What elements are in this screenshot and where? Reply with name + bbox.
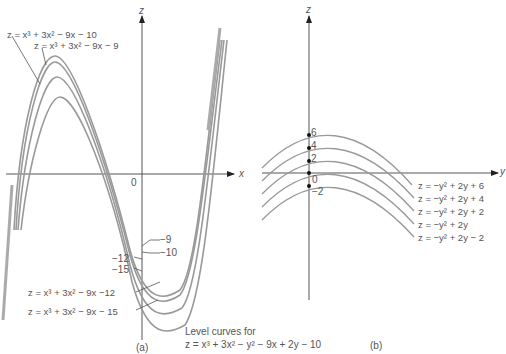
z-axis-label-b: z: [306, 4, 311, 15]
curve-bundle-top: [208, 28, 220, 130]
tick-label-minus12: −12: [112, 253, 129, 264]
x-axis-label: x: [239, 168, 244, 179]
tick-label-2: 2: [311, 153, 317, 164]
curve-label-minus9: z = x³ + 3x² − 9x − 9: [34, 40, 118, 51]
caption-line2: z = x³ + 3x² − y² − 9x + 2y − 10: [185, 339, 321, 350]
leader-lines-a: [12, 36, 160, 310]
parabola-curves: [262, 135, 414, 237]
curve-bundle-left: [3, 185, 12, 320]
panel-label-a: (a): [136, 342, 148, 353]
origin-label-a: 0: [131, 177, 137, 188]
parabola-label-0: z = −y² + 2y: [418, 219, 468, 230]
y-axis-label: y: [500, 166, 505, 177]
curve-label-minus10: z = x³ + 3x² − 9x − 10: [7, 29, 97, 40]
parabola-label-plus4: z = −y² + 2y + 4: [418, 193, 484, 204]
parabola-label-plus2: z = −y² + 2y + 2: [418, 206, 484, 217]
tick-label-6: 6: [311, 127, 317, 138]
panel-label-b: (b): [370, 340, 382, 351]
tick-label-4: 4: [311, 140, 317, 151]
tick-label-minus15: −15: [112, 264, 129, 275]
parabola-label-plus6: z = −y² + 2y + 6: [418, 180, 484, 191]
parabola-label-minus2: z = −y² + 2y − 2: [418, 232, 484, 243]
z-axis-label-a: z: [139, 5, 144, 16]
tick-label-minus2: −2: [312, 186, 323, 197]
tick-label-minus9: −9: [160, 234, 171, 245]
tick-label-minus10: −10: [160, 247, 177, 258]
tick-label-0: 0: [312, 174, 318, 185]
figure-canvas: [0, 0, 506, 354]
caption-line1: Level curves for: [185, 326, 256, 337]
curve-label-minus12: z = x³ + 3x² − 9x −12: [28, 287, 115, 298]
curve-label-minus15: z = x³ + 3x² − 9x − 15: [28, 306, 118, 317]
